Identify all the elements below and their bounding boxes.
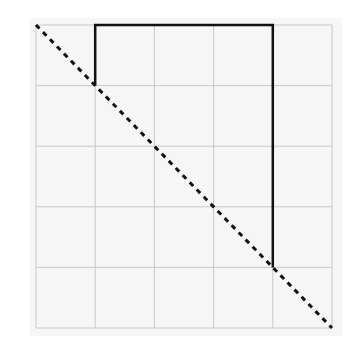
grid-diagram bbox=[0, 0, 348, 341]
